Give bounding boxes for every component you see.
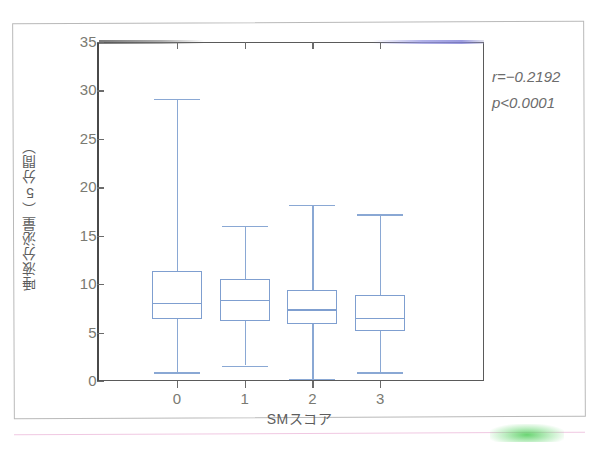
scan-artifact-top-blue-tint: [372, 40, 484, 44]
y-tick-label: 15: [63, 227, 97, 244]
y-axis-title: 唾液分泌量（5分間）: [18, 110, 42, 320]
y-tick-mark: [97, 90, 104, 91]
median-line: [152, 303, 202, 304]
y-tick-mark: [97, 236, 104, 237]
whisker-lower: [312, 324, 313, 379]
whisker-cap-lower: [357, 372, 403, 373]
y-tick-label: 25: [63, 130, 97, 147]
whisker-cap-lower: [289, 379, 335, 380]
pvalue: p<0.0001: [492, 90, 560, 116]
scan-artifact-top-left-tint: [99, 40, 204, 44]
figure-page: 05101520253035 唾液分泌量（5分間） 0123 SMスコア r=−…: [0, 0, 599, 450]
whisker-lower: [177, 319, 178, 372]
x-tick-mark: [380, 381, 381, 388]
whisker-upper: [380, 214, 381, 294]
y-tick-mark: [97, 187, 104, 188]
x-tick-mark: [177, 381, 178, 388]
whisker-cap-lower: [222, 366, 268, 367]
box-iqr: [287, 290, 337, 324]
x-tick-label: 3: [365, 390, 395, 407]
y-tick-mark: [97, 139, 104, 140]
y-tick-label: 10: [63, 275, 97, 292]
median-line: [287, 309, 337, 310]
x-tick-mark: [245, 381, 246, 388]
whisker-cap-lower: [154, 372, 200, 373]
y-tick-mark: [97, 284, 104, 285]
x-tick-mark-top: [312, 42, 313, 49]
whisker-lower: [245, 321, 246, 366]
whisker-upper: [177, 99, 178, 270]
statistics-annotation: r=−0.2192 p<0.0001: [492, 64, 560, 116]
x-tick-label: 1: [230, 390, 260, 407]
whisker-lower: [380, 331, 381, 373]
median-line: [355, 318, 405, 319]
y-tick-label: 35: [63, 33, 97, 50]
y-tick-mark: [97, 333, 104, 334]
whisker-cap-upper: [357, 214, 403, 215]
y-tick-label: 0: [63, 372, 97, 389]
x-tick-mark-top: [245, 42, 246, 49]
median-line: [220, 300, 270, 301]
whisker-upper: [312, 205, 313, 290]
whisker-cap-upper: [154, 99, 200, 100]
y-tick-label: 5: [63, 324, 97, 341]
x-tick-label: 2: [297, 390, 327, 407]
box-iqr: [355, 295, 405, 331]
y-tick-label: 30: [63, 81, 97, 98]
box-iqr: [152, 271, 202, 319]
y-axis-spine: [97, 42, 99, 381]
y-tick-mark: [97, 42, 104, 43]
plot-area: [97, 42, 484, 381]
x-tick-mark-top: [177, 42, 178, 49]
x-axis-title: SMスコア: [0, 408, 599, 428]
whisker-upper: [245, 226, 246, 279]
y-tick-mark: [97, 381, 104, 382]
x-tick-mark: [312, 381, 313, 388]
whisker-cap-upper: [289, 205, 335, 206]
x-tick-mark-top: [380, 42, 381, 49]
y-tick-label: 20: [63, 178, 97, 195]
y-axis-ticks: 05101520253035: [55, 0, 97, 450]
x-tick-label: 0: [162, 390, 192, 407]
whisker-cap-upper: [222, 226, 268, 227]
correlation-value: r=−0.2192: [492, 64, 560, 90]
